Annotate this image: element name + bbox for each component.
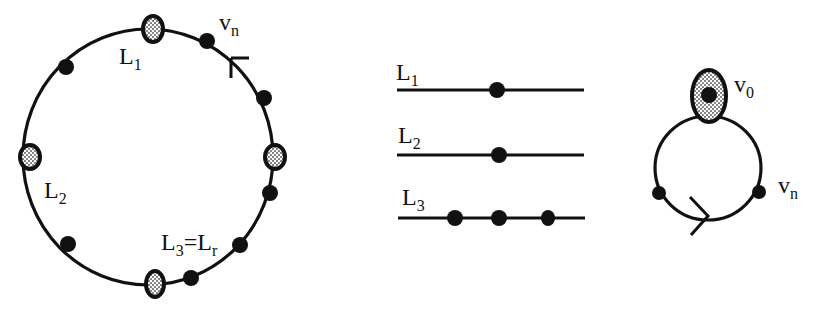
- shaded-vertex-bottom: [146, 271, 164, 297]
- shaded-vertex-top: [143, 16, 163, 42]
- vertex: [256, 90, 272, 106]
- vertex: [183, 270, 199, 286]
- shaded-vertex-right: [265, 145, 285, 169]
- vertex-vn: [199, 33, 215, 49]
- shaded-vertex-left: [20, 145, 40, 169]
- left-cycle-panel: vn L1 L2 L3=Lr: [20, 9, 285, 297]
- vertex: [262, 185, 278, 201]
- vertex: [60, 236, 76, 252]
- middle-lines-panel: L1 L2 L3: [396, 59, 585, 226]
- vertex: [58, 59, 74, 75]
- label-line-L1: L1: [396, 59, 419, 89]
- label-L3-equals-Lr: L3=Lr: [161, 229, 218, 259]
- figure-canvas: vn L1 L2 L3=Lr L1 L2 L3 v0 vn: [0, 0, 814, 309]
- line-L3-vertex-3: [541, 210, 555, 226]
- label-L1: L1: [119, 43, 142, 73]
- right-loop-panel: v0 vn: [652, 70, 798, 235]
- direction-arrow-icon: [690, 197, 708, 235]
- label-line-L2: L2: [398, 122, 421, 152]
- loop-curve: [655, 116, 761, 220]
- vertex: [232, 237, 248, 253]
- label-vn-right: vn: [778, 172, 798, 202]
- label-L2: L2: [44, 177, 67, 207]
- label-v0: v0: [734, 71, 754, 101]
- line-L3-vertex-2: [491, 210, 507, 226]
- line-L3-vertex-1: [447, 210, 463, 226]
- label-line-L3: L3: [402, 184, 425, 214]
- label-vn: vn: [219, 9, 239, 39]
- line-L2-vertex: [491, 147, 507, 163]
- vertex-vn: [752, 185, 766, 199]
- line-L1-vertex: [489, 82, 505, 98]
- vertex-left: [652, 186, 666, 200]
- vertex-v0-core: [701, 87, 717, 103]
